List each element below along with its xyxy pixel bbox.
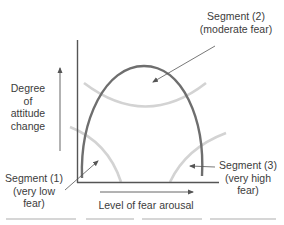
- segment-3-label-line-2: (very high: [218, 172, 278, 185]
- segment-1-label: Segment (1) (very low fear): [4, 172, 64, 210]
- y-axis-label-line-2: of: [8, 95, 48, 108]
- x-axis-label: Level of fear arousal: [96, 199, 196, 212]
- segment-2-label: Segment (2) (moderate fear): [196, 10, 276, 35]
- cropped-caption: [0, 214, 284, 224]
- segment-2-label-line-2: (moderate fear): [196, 23, 276, 36]
- y-axis-label-line-4: change: [8, 120, 48, 133]
- segment-2-pointer: [153, 46, 215, 82]
- y-axis-label-line-1: Degree: [8, 82, 48, 95]
- segment-3-label: Segment (3) (very high fear): [218, 159, 278, 197]
- y-axis-label-line-3: attitude: [8, 107, 48, 120]
- segment-3-label-line-3: fear): [218, 184, 278, 197]
- segment-1-label-line-1: Segment (1): [4, 172, 64, 185]
- segment-3-pointer: [190, 166, 215, 167]
- segment-3-label-line-1: Segment (3): [218, 159, 278, 172]
- segment-1-label-line-3: fear): [4, 197, 64, 210]
- segment-2-label-line-1: Segment (2): [196, 10, 276, 23]
- segment-1-label-line-2: (very low: [4, 185, 64, 198]
- y-axis-label: Degree of attitude change: [8, 82, 48, 132]
- segment-2-arc: [84, 83, 206, 107]
